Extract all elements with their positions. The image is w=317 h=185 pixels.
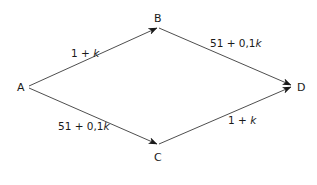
- node-d-label: D: [297, 81, 305, 94]
- edge-a-c: [29, 88, 157, 144]
- node-c-label: C: [154, 151, 162, 164]
- edge-a-b-label: 1 + k: [71, 47, 100, 59]
- edge-c-d-label: 1 + k: [228, 114, 257, 126]
- edge-c-d: [159, 87, 291, 144]
- node-a-label: A: [17, 81, 25, 94]
- network-diagram: A B C D 1 + k 51 + 0,1k 51 + 0,1k 1 + k: [0, 0, 317, 185]
- edge-a-c-label: 51 + 0,1k: [58, 120, 111, 132]
- edge-b-d-label: 51 + 0,1k: [210, 37, 263, 49]
- node-b-label: B: [154, 12, 162, 25]
